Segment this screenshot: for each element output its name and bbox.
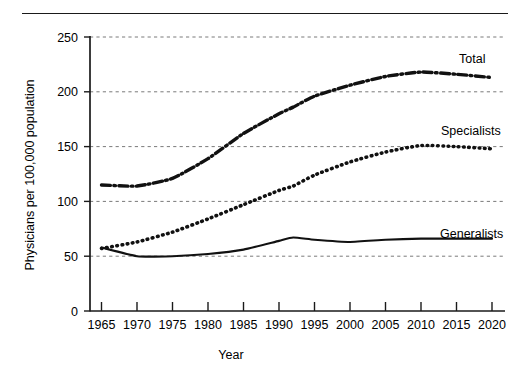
x-tick-label-2010: 2010 [407,318,435,332]
y-tick-label-250: 250 [57,31,78,45]
y-tick-label-100: 100 [57,195,78,209]
line-chart: 250 200 150 100 50 0 1965 1970 1975 [0,0,529,385]
series-label-generalists: Generalists [440,227,503,241]
x-axis-ticks [102,302,493,311]
x-tick-label-1985: 1985 [230,318,258,332]
series-line-specialists [102,145,493,248]
y-tick-label-200: 200 [57,85,78,99]
series-paths [102,72,493,257]
axes [90,36,505,312]
y-axis-ticks [84,37,90,311]
x-tick-label-2015: 2015 [443,318,471,332]
x-axis-tick-labels: 1965 1970 1975 1980 1985 1990 1995 2000 … [88,318,506,332]
x-axis-title: Year [218,348,243,362]
x-tick-label-2005: 2005 [372,318,400,332]
x-tick-label-1995: 1995 [301,318,329,332]
series-label-total: Total [459,52,485,66]
figure-container: 250 200 150 100 50 0 1965 1970 1975 [0,0,529,385]
x-tick-label-2020: 2020 [478,318,506,332]
series-line-generalists [102,238,493,257]
x-tick-label-2000: 2000 [336,318,364,332]
y-tick-label-150: 150 [57,140,78,154]
x-tick-label-1975: 1975 [159,318,187,332]
y-axis-title: Physicians per 100,000 population [23,79,37,270]
x-tick-label-1980: 1980 [194,318,222,332]
y-tick-label-0: 0 [71,305,78,319]
y-tick-label-50: 50 [64,250,78,264]
x-tick-label-1965: 1965 [88,318,116,332]
y-axis-tick-labels: 250 200 150 100 50 0 [57,31,78,319]
series-label-specialists: Specialists [441,124,501,138]
x-tick-label-1970: 1970 [123,318,151,332]
series-line-total [102,72,493,186]
x-tick-label-1990: 1990 [265,318,293,332]
